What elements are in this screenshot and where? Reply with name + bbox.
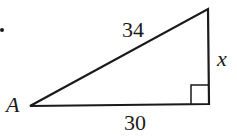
base-label: 30 <box>124 110 146 135</box>
right-triangle-diagram: A 34 30 x <box>0 0 237 137</box>
vertex-a-label: A <box>4 92 20 117</box>
triangle <box>30 9 209 106</box>
bullet-dot <box>0 28 4 32</box>
hypotenuse-label: 34 <box>122 17 144 42</box>
side-x-label: x <box>216 46 227 71</box>
right-angle-marker <box>191 85 209 104</box>
